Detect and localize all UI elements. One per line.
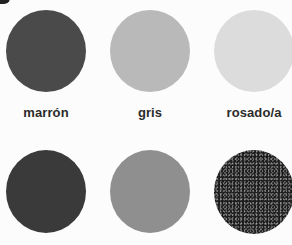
swatch-gris: [110, 10, 190, 92]
swatch-marron: [6, 10, 86, 92]
label-rosado: rosado/a: [204, 105, 292, 120]
label-marron: marrón: [0, 105, 96, 120]
swatch-rosado: [214, 10, 292, 92]
swatch-row2-textured: [214, 150, 292, 234]
swatch-row2-medium: [110, 150, 190, 233]
swatch-row2-dark: [6, 150, 86, 233]
corner-badge-fragment: [0, 0, 10, 4]
label-gris: gris: [100, 105, 200, 120]
